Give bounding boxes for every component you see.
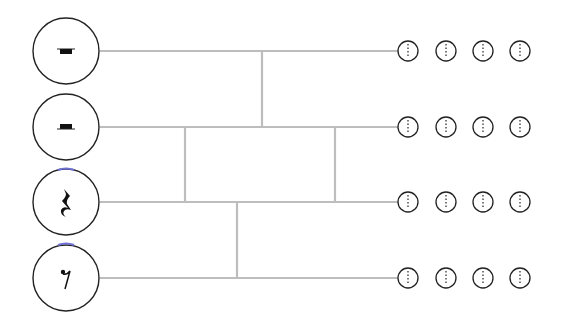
rest-circles: [33, 18, 99, 311]
eighth-rest-circle: [33, 245, 99, 311]
rest-values-diagram: [0, 0, 561, 322]
beat-circles: [398, 41, 530, 288]
connector-lines: [100, 51, 398, 278]
